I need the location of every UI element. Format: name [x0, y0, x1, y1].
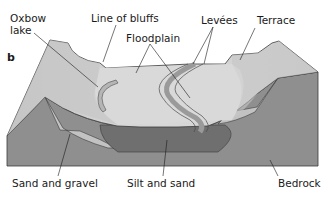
label-silt-and-sand: Silt and sand [127, 177, 195, 189]
label-terrace: Terrace [257, 14, 295, 26]
silt-and-sand-layer [100, 125, 231, 152]
floodplain-block-diagram: Oxbow lake Line of bluffs Floodplain Lev… [0, 0, 328, 199]
label-levees: Levées [201, 14, 238, 26]
label-floodplain: Floodplain [126, 32, 180, 44]
label-sand-and-gravel: Sand and gravel [12, 177, 98, 189]
label-oxbow-lake-line2: lake [10, 24, 32, 36]
label-bedrock: Bedrock [278, 177, 321, 189]
label-line-of-bluffs: Line of bluffs [91, 12, 159, 24]
label-oxbow-lake-line1: Oxbow [10, 12, 46, 24]
block-diagram-graphic [0, 0, 328, 199]
panel-letter: b [7, 51, 15, 64]
